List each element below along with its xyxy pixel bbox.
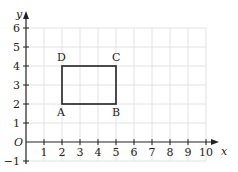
y-tick-neg1: −1 bbox=[4, 155, 20, 168]
x-tick-5: 5 bbox=[113, 146, 120, 159]
y-tick-5: 5 bbox=[13, 41, 20, 54]
y-tick-6: 6 bbox=[13, 22, 20, 35]
x-tick-9: 9 bbox=[185, 146, 192, 159]
y-tick-1: 1 bbox=[13, 117, 20, 130]
origin-label: O bbox=[14, 136, 23, 149]
x-tick-10: 10 bbox=[199, 146, 213, 159]
point-label-a: A bbox=[56, 106, 66, 119]
point-label-c: C bbox=[112, 51, 120, 64]
x-tick-7: 7 bbox=[149, 146, 156, 159]
x-tick-8: 8 bbox=[167, 146, 174, 159]
coordinate-grid: 1 2 3 4 5 6 7 8 9 10 6 5 4 3 2 1 −1 y x … bbox=[0, 0, 238, 172]
x-axis-arrow-icon bbox=[211, 139, 219, 145]
y-tick-2: 2 bbox=[13, 98, 20, 111]
point-label-d: D bbox=[57, 51, 66, 64]
x-tick-3: 3 bbox=[77, 146, 84, 159]
x-tick-2: 2 bbox=[59, 146, 66, 159]
x-tick-1: 1 bbox=[41, 146, 48, 159]
x-tick-labels: 1 2 3 4 5 6 7 8 9 10 bbox=[41, 146, 214, 159]
point-label-b: B bbox=[112, 106, 120, 119]
x-tick-6: 6 bbox=[131, 146, 138, 159]
y-axis-label: y bbox=[15, 8, 23, 21]
y-axis-arrow-icon bbox=[23, 11, 29, 19]
axes bbox=[26, 17, 213, 164]
x-axis-label: x bbox=[221, 145, 228, 158]
y-tick-3: 3 bbox=[13, 79, 20, 92]
x-tick-4: 4 bbox=[95, 146, 102, 159]
y-tick-4: 4 bbox=[13, 60, 20, 73]
